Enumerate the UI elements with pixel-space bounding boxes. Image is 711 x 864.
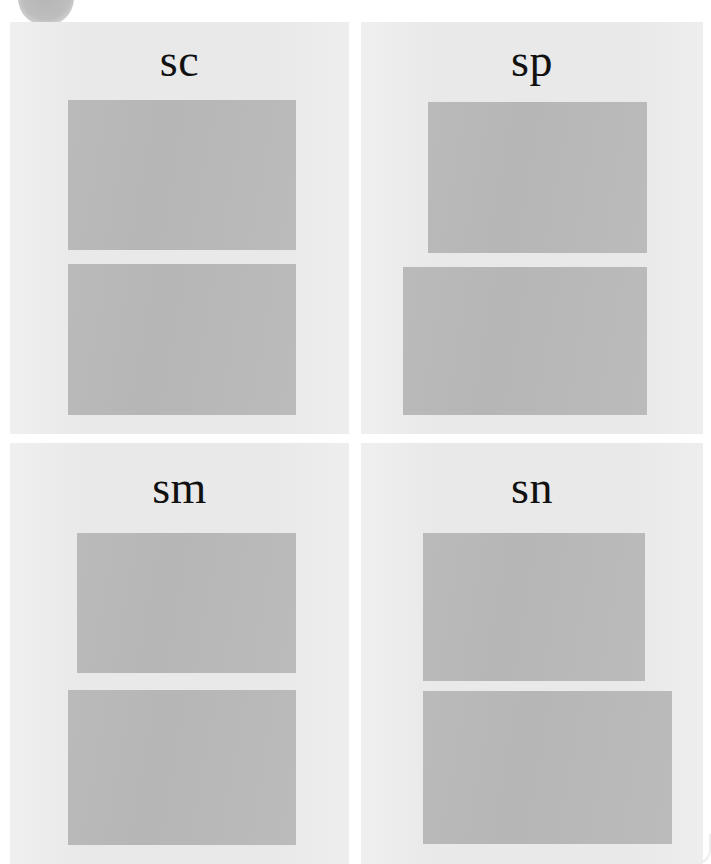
page-rounded-corner [681,834,711,864]
figure-page: sc sp sm sn [0,0,711,864]
panel-sp-upper-band [428,102,647,253]
panel-label-sm: sm [10,465,349,511]
panel-label-sn: sn [361,465,703,511]
panel-sn-upper-band [423,533,645,681]
panel-sp: sp [361,22,703,434]
panel-sn-lower-band [423,691,672,844]
panel-sc-upper-band [68,100,296,250]
panel-sc: sc [10,22,349,434]
panel-sp-lower-band [403,267,647,415]
panel-grid: sc sp sm sn [0,0,711,864]
panel-sm: sm [10,443,349,864]
panel-sm-upper-band [77,533,296,673]
panel-sm-lower-band [68,690,296,845]
panel-label-sc: sc [10,38,349,84]
panel-sc-lower-band [68,264,296,415]
panel-label-sp: sp [361,38,703,84]
panel-sn: sn [361,443,703,864]
